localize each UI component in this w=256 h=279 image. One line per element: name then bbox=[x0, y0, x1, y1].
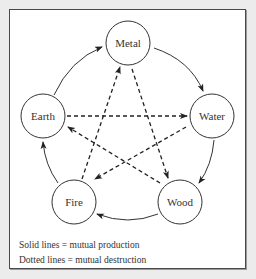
legend: Solid lines = mutual production Dotted l… bbox=[19, 238, 146, 268]
destruction-arrows bbox=[67, 67, 187, 183]
arrow-wood-to-fire bbox=[97, 214, 158, 220]
arrow-fire-to-earth bbox=[43, 142, 58, 183]
legend-solid: Solid lines = mutual production bbox=[19, 238, 146, 253]
node-label-metal: Metal bbox=[115, 37, 141, 49]
node-label-wood: Wood bbox=[167, 196, 194, 208]
arrow-wood-to-earth bbox=[68, 127, 160, 183]
node-fire: Fire bbox=[52, 180, 96, 224]
node-label-water: Water bbox=[199, 110, 225, 122]
arrow-metal-to-wood bbox=[132, 69, 168, 178]
node-label-earth: Earth bbox=[31, 110, 55, 122]
legend-dotted: Dotted lines = mutual destruction bbox=[19, 253, 146, 268]
node-metal: Metal bbox=[106, 21, 150, 65]
node-wood: Wood bbox=[158, 180, 202, 224]
node-earth: Earth bbox=[21, 94, 65, 138]
arrow-water-to-wood bbox=[199, 140, 214, 183]
arrow-earth-to-metal bbox=[54, 47, 102, 95]
node-water: Water bbox=[190, 94, 234, 138]
node-label-fire: Fire bbox=[65, 196, 83, 208]
arrow-metal-to-water bbox=[154, 48, 203, 91]
arrow-fire-to-metal bbox=[82, 67, 120, 179]
